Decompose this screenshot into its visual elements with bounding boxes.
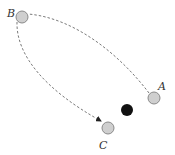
node-c-label: C	[99, 139, 108, 152]
node-a-label: A	[157, 80, 166, 93]
node-c-circle	[102, 122, 114, 134]
node-a-circle	[148, 92, 160, 104]
node-b-circle	[16, 11, 28, 23]
node-c: C	[99, 122, 114, 152]
black-obstacle-dot	[121, 104, 133, 116]
node-b-label: B	[6, 7, 15, 20]
dashed-path-b-to-c	[17, 22, 101, 121]
node-a: A	[148, 80, 166, 104]
trajectory-diagram: A B C	[0, 0, 175, 155]
node-b: B	[6, 7, 28, 23]
